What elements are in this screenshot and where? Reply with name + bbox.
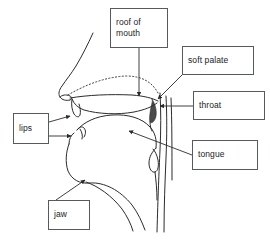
label-text-jaw: jaw bbox=[54, 209, 67, 220]
label-box-throat[interactable]: throat bbox=[193, 91, 265, 120]
leader-jaw bbox=[56, 180, 85, 200]
label-text-soft-palate: soft palate bbox=[188, 55, 228, 66]
label-text-tongue: tongue bbox=[198, 149, 225, 160]
label-box-lips[interactable]: lips bbox=[13, 113, 49, 144]
tongue-body-icon bbox=[77, 115, 156, 148]
pharynx-wall-icon bbox=[157, 93, 161, 232]
epiglottis-icon bbox=[149, 148, 158, 172]
label-box-roof-of-mouth[interactable]: roof of mouth bbox=[110, 8, 168, 48]
leader-soft-palate bbox=[158, 75, 182, 99]
label-text-throat: throat bbox=[199, 100, 221, 111]
larynx-lower-icon bbox=[155, 172, 157, 200]
under-chin-line-icon bbox=[86, 182, 133, 231]
pharynx-wall-inner-icon bbox=[164, 96, 167, 232]
label-box-tongue[interactable]: tongue bbox=[192, 140, 258, 170]
label-text-roof-of-mouth: roof of mouth bbox=[116, 17, 141, 40]
leader-lips-upper bbox=[49, 116, 70, 122]
label-box-jaw[interactable]: jaw bbox=[48, 200, 90, 230]
label-text-lips: lips bbox=[19, 123, 32, 134]
label-box-soft-palate[interactable]: soft palate bbox=[182, 46, 254, 75]
hard-palate-top-icon bbox=[70, 95, 158, 101]
lower-lip-icon bbox=[69, 133, 74, 144]
nasal-cavity-dotted-line-icon bbox=[68, 76, 158, 95]
nose-profile-icon bbox=[59, 33, 93, 100]
tongue-tip-fold-icon bbox=[80, 129, 82, 139]
diagram-canvas: roof of mouth soft palate throat tongue … bbox=[0, 0, 270, 242]
hard-palate-inner-icon bbox=[72, 99, 157, 114]
soft-palate-velum-icon bbox=[150, 99, 157, 123]
neck-outline-icon bbox=[171, 98, 172, 180]
